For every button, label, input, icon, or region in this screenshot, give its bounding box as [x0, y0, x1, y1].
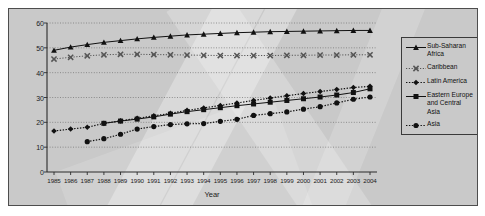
x-tick-label: 1996	[230, 177, 243, 184]
y-tick-label: 10	[36, 144, 44, 151]
x-tick-label: 1986	[64, 177, 77, 184]
x-tick-label: 2002	[330, 177, 343, 184]
x-tick-label: 1992	[164, 177, 177, 184]
x-tick-label: 1997	[247, 177, 260, 184]
legend-marker-square-icon	[405, 92, 427, 101]
x-tick-label: 1985	[47, 177, 60, 184]
x-tick-label: 1998	[264, 177, 277, 184]
y-tick-label: 30	[36, 94, 44, 101]
x-tick-label: 1989	[114, 177, 127, 184]
legend-item: Sub-Saharan Africa	[405, 42, 475, 59]
x-tick-label: 1991	[147, 177, 160, 184]
legend-label: Latin America	[427, 77, 467, 85]
x-tick-label: 2000	[297, 177, 310, 184]
data-series-layer	[47, 23, 377, 172]
y-tick-label: 0	[40, 169, 44, 176]
series-5	[85, 94, 373, 144]
plot-inner	[47, 23, 377, 172]
y-tick-label: 60	[36, 20, 44, 27]
legend-item: Caribbean	[405, 63, 475, 73]
y-tick-label: 40	[36, 69, 44, 76]
legend-label: Sub-Saharan Africa	[427, 42, 475, 59]
y-tick-label: 50	[36, 44, 44, 51]
chart-figure: Percent female (%) Year 0102030405060 19…	[0, 0, 485, 216]
legend-label: Eastern Europe and Central Asia	[427, 91, 475, 116]
legend-marker-circle-icon	[405, 121, 427, 130]
x-axis-label: Year	[47, 190, 377, 199]
legend-label: Caribbean	[427, 63, 457, 71]
x-tick-label: 1990	[130, 177, 143, 184]
legend-marker-diamond-icon	[405, 78, 427, 87]
plot-area: 0102030405060 19851986198719881989199019…	[47, 23, 377, 172]
legend-marker-x-icon	[405, 64, 427, 73]
x-tick-label: 1988	[97, 177, 110, 184]
figure-frame: Percent female (%) Year 0102030405060 19…	[8, 8, 478, 206]
chart-legend: Sub-Saharan AfricaCaribbeanLatin America…	[401, 37, 478, 135]
x-tick-label: 1994	[197, 177, 210, 184]
x-tick-label: 2004	[363, 177, 376, 184]
series-2	[51, 52, 372, 62]
y-tick-label: 20	[36, 119, 44, 126]
legend-label: Asia	[427, 120, 440, 128]
x-tick-label: 2001	[313, 177, 326, 184]
x-tick-label: 2003	[347, 177, 360, 184]
legend-item: Eastern Europe and Central Asia	[405, 91, 475, 116]
legend-item: Asia	[405, 120, 475, 130]
series-1	[51, 28, 373, 53]
x-tick-label: 1993	[180, 177, 193, 184]
x-tick-label: 1999	[280, 177, 293, 184]
x-tick-label: 1987	[81, 177, 94, 184]
legend-marker-triangle-icon	[405, 43, 427, 52]
legend-item: Latin America	[405, 77, 475, 87]
x-tick-label: 1995	[214, 177, 227, 184]
